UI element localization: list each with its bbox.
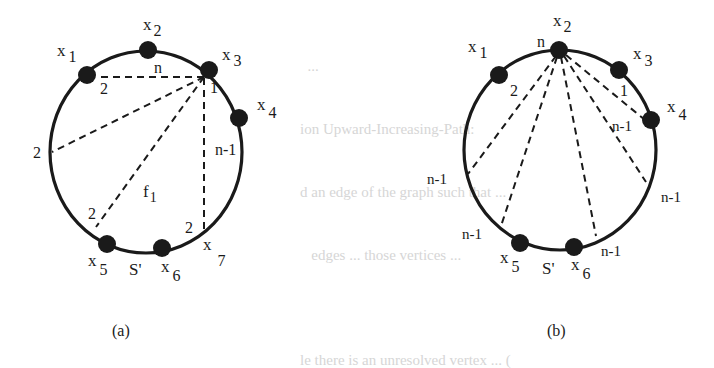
vertex-x1 [490,66,508,84]
label-x1: x1 [468,37,488,61]
label-x7: x7 [203,235,226,269]
weight-x5-n-1: n-1 [462,226,482,242]
weight-x2-n: n [154,59,162,76]
vertex-x4 [230,109,248,127]
figure: x1 x2 x3 x4 x5 x6 x7 n 2 1 n-1 2 2 2 f1 … [0,0,714,368]
weight-x3-1: 1 [620,82,628,99]
segment-label-s-prime: S' [542,259,555,278]
vertex-x6 [153,239,171,257]
weight-left-n-1: n-1 [427,171,447,187]
vertex-x4 [642,111,660,129]
vertex-x5 [98,235,116,253]
weight-x4-n-1: n-1 [612,118,632,134]
caption-b: (b) [547,322,566,340]
weight-left-2: 2 [33,144,41,161]
vertex-x3 [200,61,218,79]
vertex-x6 [565,238,583,256]
weight-x1-2: 2 [510,82,518,99]
weight-x2-n: n [537,33,545,50]
label-x2: x2 [553,11,572,35]
face-label-f1: f1 [143,182,157,205]
weight-x4-n-1: n-1 [215,141,236,158]
chord-x3-left [52,77,204,152]
panel-a: x1 x2 x3 x4 x5 x6 x7 n 2 1 n-1 2 2 2 f1 … [33,15,277,340]
vertex-x2 [550,41,568,59]
label-x3: x3 [633,44,653,69]
weight-x3-1: 1 [210,79,218,96]
label-x5: x5 [500,248,520,275]
vertex-x1 [78,66,96,84]
weight-right-n-1: n-1 [661,189,681,205]
chord-x2-x6 [561,57,596,236]
weight-x5-2: 2 [88,205,96,222]
chord-x2-left [468,56,556,174]
label-x6: x6 [571,255,591,282]
weight-x6-n-1: n-1 [601,243,621,259]
chord-x2-x5 [500,57,557,229]
weight-x7-2: 2 [185,219,193,236]
vertex-x2 [139,41,157,59]
label-x4: x4 [667,97,687,123]
label-x6: x6 [161,257,181,284]
segment-label-s-prime: S' [129,260,142,279]
label-x3: x3 [222,45,242,69]
chord-x2-right [564,56,646,182]
dashed-chords-a [52,77,204,232]
weight-x1-2: 2 [100,80,108,97]
label-x1: x1 [57,41,77,65]
vertex-x3 [610,61,628,79]
vertex-x5 [511,234,529,252]
panel-b: x1 x2 x3 x4 x5 x6 n 2 1 n-1 n-1 n-1 n-1 … [427,11,687,340]
label-x2: x2 [143,15,162,39]
caption-a: (a) [112,322,130,340]
label-x4: x4 [257,95,277,121]
label-x5: x5 [88,251,108,278]
